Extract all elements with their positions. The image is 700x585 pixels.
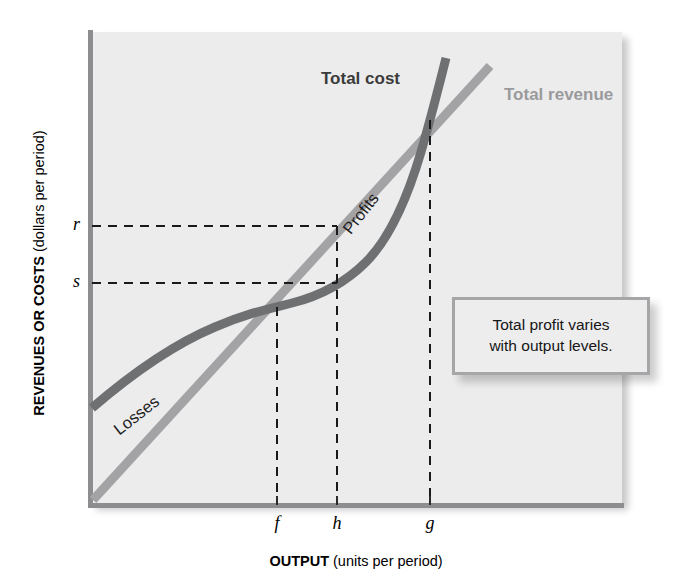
y-tick-label-r: r xyxy=(56,214,80,235)
y-axis-title: REVENUES OR COSTS (dollars per period) xyxy=(31,58,47,488)
x-tick-label-h: h xyxy=(322,513,352,534)
x-axis-line xyxy=(88,503,624,508)
x-axis-title-rest: (units per period) xyxy=(329,553,443,569)
x-tick-mark-g xyxy=(429,496,431,505)
economics-chart-figure: REVENUES OR COSTS (dollars per period) O… xyxy=(0,0,700,585)
x-tick-label-g: g xyxy=(415,513,445,534)
total-cost-label: Total cost xyxy=(321,69,400,89)
callout-box: Total profit varies with output levels. xyxy=(452,297,650,375)
x-axis-title-bold: OUTPUT xyxy=(269,553,329,569)
callout-text: Total profit varies with output levels. xyxy=(489,315,612,357)
y-axis-title-rest: (dollars per period) xyxy=(31,130,47,256)
y-axis-line xyxy=(88,30,93,508)
total-revenue-label: Total revenue xyxy=(504,85,613,105)
x-axis-title: OUTPUT (units per period) xyxy=(90,553,622,569)
x-tick-mark-h xyxy=(336,496,338,505)
x-tick-label-f: f xyxy=(262,513,292,534)
y-axis-title-bold: REVENUES OR COSTS xyxy=(31,256,47,416)
x-tick-mark-f xyxy=(276,496,278,505)
y-tick-label-s: s xyxy=(56,271,80,292)
